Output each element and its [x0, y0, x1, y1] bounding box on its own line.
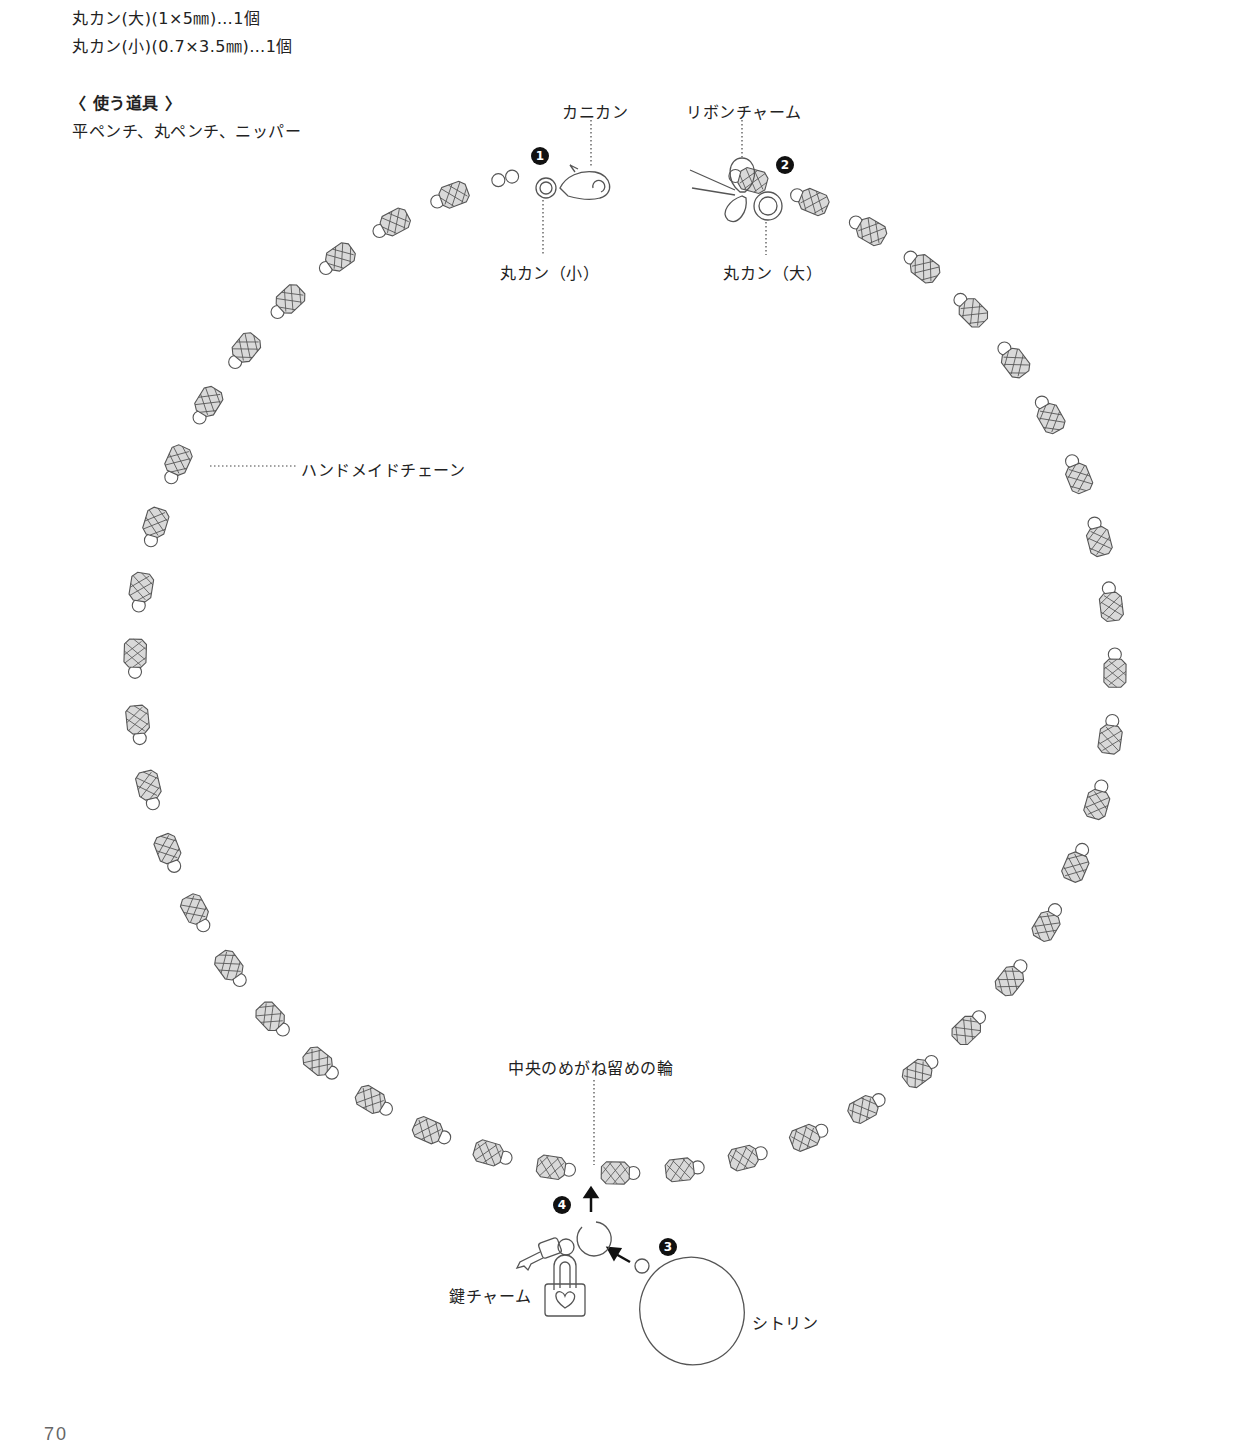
tools-heading: 〈 使う道具 〉 [70, 90, 181, 114]
step-3-badge: 3 [659, 1238, 677, 1256]
step-2-badge: 2 [776, 156, 794, 174]
label-ribbon-charm: リボンチャーム [686, 99, 802, 123]
bead-icon [956, 295, 991, 330]
bead-icon [1097, 724, 1123, 755]
bead-icon [949, 1013, 984, 1048]
bead-icon [273, 281, 308, 316]
bead-icon [229, 330, 264, 366]
step-1-badge: 1 [531, 147, 549, 165]
bead-icon [845, 1093, 880, 1126]
handmade-chain [124, 166, 1126, 1184]
bead-icon [727, 1144, 759, 1172]
label-citrine: シトリン [752, 1310, 818, 1334]
bead-icon [854, 215, 889, 248]
bead-icon [1082, 788, 1111, 821]
bead-icon [1104, 659, 1126, 687]
bead-icon [472, 1138, 505, 1167]
bead-icon [300, 1044, 336, 1079]
bead-icon [992, 963, 1027, 999]
page-number: 70 [44, 1424, 68, 1445]
label-key-charm: 鍵チャーム [449, 1283, 532, 1307]
bead-icon [665, 1157, 695, 1182]
bead-icon [125, 705, 150, 735]
bead-icon [907, 252, 943, 287]
bead-icon [323, 240, 359, 274]
bead-icon [1099, 592, 1124, 622]
label-marukan-large: 丸カン（大） [723, 260, 822, 284]
bead-icon [353, 1083, 388, 1116]
bead-icon [899, 1056, 935, 1090]
bead-icon [134, 769, 162, 801]
material-large-jump-ring: 丸カン(大)(1×5㎜)…1個 [72, 5, 260, 29]
label-kanikan: カニカン [562, 99, 628, 123]
necklace-diagram [0, 0, 1234, 1449]
arrow-up-icon [585, 1188, 597, 1212]
label-handmade-chain: ハンドメイドチェーン [301, 457, 465, 481]
label-center-ring: 中央のめがね留めの輪 [508, 1055, 673, 1079]
bead-icon [212, 947, 246, 983]
bead-icon [253, 999, 288, 1034]
citrine-stone-icon [626, 1244, 758, 1379]
lobster-clasp-icon [536, 165, 610, 199]
bead-icon [536, 1154, 567, 1180]
bead-icon [1035, 401, 1068, 436]
leader-lines [210, 120, 766, 1165]
label-marukan-small: 丸カン（小） [500, 260, 599, 284]
material-small-jump-ring: 丸カン(小)(0.7×3.5㎜)…1個 [72, 33, 293, 57]
bead-icon [378, 206, 413, 239]
bead-icon [178, 891, 211, 926]
tools-list: 平ペンチ、丸ペンチ、ニッパー [72, 118, 301, 142]
arrow-left-icon [608, 1248, 630, 1262]
bead-icon [1029, 909, 1062, 944]
bead-icon [124, 639, 147, 668]
bead-icon [1085, 525, 1113, 558]
step-4-badge: 4 [553, 1196, 571, 1214]
bead-icon [128, 571, 154, 602]
ribbon-charm-icon [690, 158, 782, 221]
bead-icon [141, 506, 170, 539]
bead-icon [998, 345, 1032, 381]
bead-icon [601, 1162, 629, 1185]
bead-icon [192, 384, 225, 419]
